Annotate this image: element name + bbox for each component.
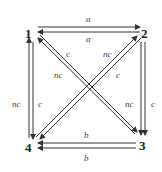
node-1: 1 <box>25 26 32 41</box>
node-4: 4 <box>25 140 32 155</box>
label-left-outer: nc <box>12 99 21 109</box>
node-2: 2 <box>141 26 148 41</box>
label-bottom-lower: b <box>84 153 89 163</box>
label-diag-13-lower: nc <box>54 70 63 80</box>
label-top-lower: a <box>86 34 91 44</box>
label-bottom-upper: b <box>84 130 89 140</box>
label-top-upper: a <box>86 14 91 24</box>
node-3: 3 <box>139 138 146 153</box>
label-right-outer: c <box>151 99 155 109</box>
label-diag-13-upper: c <box>66 49 70 59</box>
label-left-inner: c <box>38 99 42 109</box>
label-diag-24-lower: c <box>116 70 120 80</box>
state-transition-diagram: 1 2 3 4 a a nc c nc c b b c nc nc c <box>0 0 162 172</box>
label-right-inner: nc <box>125 99 134 109</box>
edge-1-to-3 <box>40 35 137 132</box>
label-diag-24-upper: nc <box>103 49 112 59</box>
edge-2-to-4 <box>40 38 141 139</box>
